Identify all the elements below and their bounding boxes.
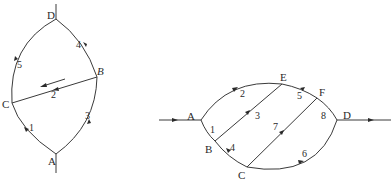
right-node-B-label: B bbox=[205, 143, 212, 155]
network-diagrams: D A C B 1 2 3 4 5 bbox=[0, 0, 391, 185]
left-edge-4-arrow-icon bbox=[83, 42, 87, 47]
right-node-A-label: A bbox=[187, 110, 195, 122]
right-output-arrow-icon bbox=[368, 118, 374, 122]
left-node-C-label: C bbox=[2, 98, 9, 110]
left-edge-5-label: 5 bbox=[17, 59, 22, 70]
left-flow-arrow-icon bbox=[40, 83, 47, 87]
left-node-B-label: B bbox=[97, 65, 104, 77]
right-edge-2-label: 2 bbox=[240, 88, 245, 99]
right-node-C-label: C bbox=[238, 169, 245, 181]
left-edge-1-label: 1 bbox=[29, 122, 34, 133]
right-edge-7-label: 7 bbox=[273, 121, 278, 132]
right-edge-5-label: 5 bbox=[297, 90, 302, 101]
left-edge-2-label: 2 bbox=[51, 89, 56, 100]
right-edge-4-label: 4 bbox=[230, 142, 235, 153]
left-edge-1 bbox=[12, 103, 56, 154]
right-edge-8 bbox=[317, 98, 337, 120]
left-edge-3-label: 3 bbox=[85, 110, 90, 121]
right-network-diagram: A B C D E F 1 2 3 4 5 6 7 8 bbox=[159, 71, 391, 181]
right-edge-6 bbox=[247, 120, 337, 169]
left-network-diagram: D A C B 1 2 3 4 5 bbox=[2, 4, 104, 173]
right-node-F-label: F bbox=[319, 86, 325, 98]
left-node-D-label: D bbox=[47, 9, 55, 21]
left-edge-3 bbox=[56, 77, 97, 154]
right-node-E-label: E bbox=[280, 71, 287, 83]
left-node-A-label: A bbox=[48, 155, 56, 167]
right-input-arrow-icon bbox=[172, 118, 178, 122]
right-edge-3-label: 3 bbox=[255, 110, 260, 121]
right-edge-8-label: 8 bbox=[321, 110, 326, 121]
right-edge-6-label: 6 bbox=[302, 148, 307, 159]
left-edge-4-label: 4 bbox=[76, 39, 81, 50]
right-node-D-label: D bbox=[343, 109, 351, 121]
right-edge-1-label: 1 bbox=[210, 124, 215, 135]
